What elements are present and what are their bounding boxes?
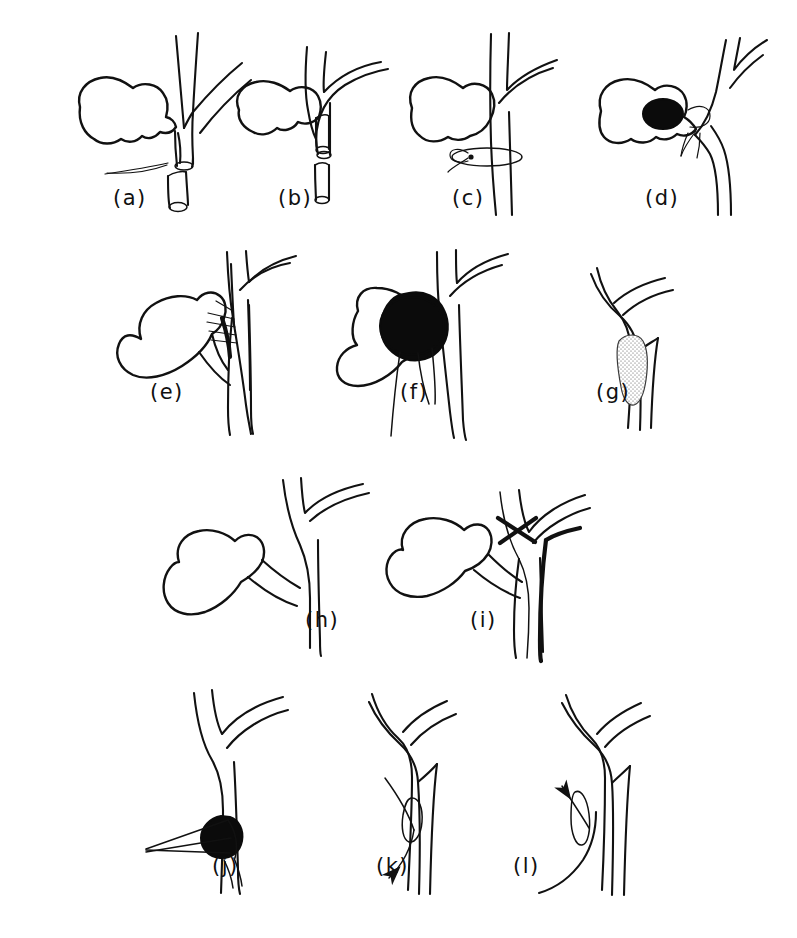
panel-label-l: (l) [513, 854, 540, 878]
figure-root: (a) [0, 0, 797, 938]
panel-label-e: (e) [150, 380, 184, 404]
panel-label-g: (g) [596, 380, 630, 404]
panel-label-i: (i) [470, 608, 497, 632]
panel-label-b: (b) [278, 186, 312, 210]
black-stone-d [643, 99, 683, 129]
panel-label-f: (f) [400, 380, 428, 404]
panel-label-j: (j) [212, 854, 239, 878]
biliary-procedures-figure: (a) [0, 0, 797, 938]
panel-label-d: (d) [645, 186, 679, 210]
panel-label-a: (a) [113, 186, 147, 210]
panel-label-c: (c) [452, 186, 484, 210]
panel-label-h: (h) [305, 608, 339, 632]
panel-label-k: (k) [376, 854, 409, 878]
large-black-mass-f [380, 292, 448, 360]
